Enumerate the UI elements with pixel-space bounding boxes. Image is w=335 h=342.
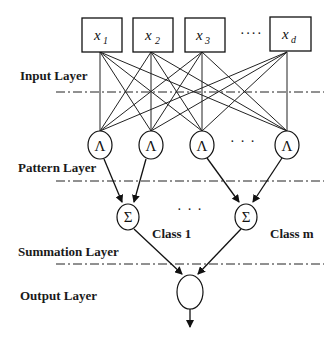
label-summation-layer: Summation Layer	[18, 244, 119, 259]
pattern-symbol-3: Λ	[197, 138, 208, 154]
summation-ellipsis: · · ·	[177, 202, 203, 217]
pattern-symbol-1: Λ	[95, 138, 106, 154]
input-x2-var: x	[144, 27, 152, 43]
input-x3-var: x	[195, 27, 203, 43]
input-x1-var: x	[93, 27, 101, 43]
pattern-ellipsis: · · ·	[230, 134, 256, 149]
pattern-symbol-2: Λ	[146, 138, 157, 154]
pattern-summation-arrows	[104, 158, 282, 202]
pnn-diagram: x 1 x 2 x 3 x d ···· Λ Λ Λ Λ · · · Σ Σ ·…	[0, 0, 335, 342]
label-input-layer: Input Layer	[20, 68, 88, 83]
label-pattern-layer: Pattern Layer	[18, 160, 97, 175]
output-node	[177, 275, 203, 309]
class-1-label: Class 1	[152, 226, 191, 241]
summation-symbol-m: Σ	[242, 209, 251, 225]
input-node-x1	[82, 18, 122, 52]
summation-symbol-1: Σ	[124, 209, 133, 225]
label-output-layer: Output Layer	[20, 288, 97, 303]
input-ellipsis: ····	[240, 26, 263, 41]
input-x2-sub: 2	[155, 35, 160, 46]
input-x1-sub: 1	[103, 35, 108, 46]
input-x3-sub: 3	[204, 35, 210, 46]
pattern-symbol-d: Λ	[282, 138, 293, 154]
input-xd-var: x	[281, 26, 289, 42]
pattern-layer-nodes	[88, 131, 299, 159]
input-node-x2	[133, 18, 173, 52]
diagram-canvas: x 1 x 2 x 3 x d ···· Λ Λ Λ Λ · · · Σ Σ ·…	[0, 0, 335, 342]
class-m-label: Class m	[270, 226, 314, 241]
